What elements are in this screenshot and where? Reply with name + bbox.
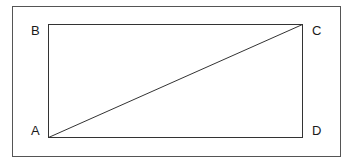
diagonal-ac <box>49 25 303 138</box>
vertex-label-a: A <box>31 123 40 138</box>
vertex-label-b: B <box>31 23 40 38</box>
vertex-label-d: D <box>312 123 321 138</box>
vertex-label-c: C <box>312 23 321 38</box>
diagram-canvas: B A C D <box>0 0 346 161</box>
